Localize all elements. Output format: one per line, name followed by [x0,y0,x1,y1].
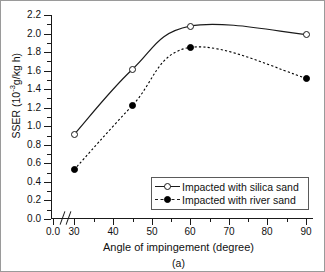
x-tick-90 [306,219,307,225]
y-axis-label-head: SSER (10 [10,92,22,139]
legend-marker-filled-circle-icon [155,194,180,205]
curve-silica-sand [74,24,306,134]
data-point-river-90 [303,75,310,82]
x-tick-70 [229,219,230,225]
legend-item-silica-sand: Impacted with silica sand [155,180,305,193]
y-axis-label-tail: g/kg h) [10,53,22,85]
x-tick-label-60: 60 [173,227,207,237]
x-tick-label-50: 50 [135,227,169,237]
x-tick-minor [133,219,134,222]
x-tick-minor [171,219,172,222]
figure-panel: 0.00.20.40.60.81.01.21.41.61.82.02.2 0.0… [0,0,325,272]
y-axis-label-exponent: -3 [8,85,17,92]
data-point-river-30 [71,166,78,173]
data-point-river-45 [129,102,136,109]
x-tick-label-80: 80 [250,227,284,237]
y-tick-label-2.2: 2.2 [15,10,41,20]
y-tick-0.2 [44,200,51,201]
y-tick-1.6 [44,71,51,72]
legend-item-river-sand: Impacted with river sand [155,193,305,206]
y-tick-label-0.4: 0.4 [15,177,41,187]
x-tick-60 [190,219,191,225]
x-tick-0.0 [53,219,54,225]
y-tick-1.4 [44,89,51,90]
y-tick-0.6 [44,163,51,164]
x-tick-40 [113,219,114,225]
x-tick-50 [152,219,153,225]
x-tick-80 [267,219,268,225]
legend-label-river-sand: Impacted with river sand [180,194,296,206]
y-tick-1.0 [44,126,51,127]
y-tick-label-0.2: 0.2 [15,195,41,205]
y-tick-0.4 [44,182,51,183]
legend-marker-open-circle-icon [155,181,180,192]
data-point-silica-45 [129,66,136,73]
x-tick-label-30: 30 [57,227,91,237]
x-tick-minor [210,219,211,222]
x-tick-minor [287,219,288,222]
legend-box: Impacted with silica sand Impacted with … [151,177,309,210]
x-tick-label-70: 70 [212,227,246,237]
x-tick-label-90: 90 [289,227,323,237]
y-tick-label-0.0: 0.0 [15,214,41,224]
y-tick-0.8 [44,145,51,146]
data-point-river-60 [187,44,194,51]
legend-label-silica-sand: Impacted with silica sand [180,181,299,193]
x-axis-label: Angle of impingement (degree) [41,241,316,253]
x-tick-minor [94,219,95,222]
curve-river-sand [74,47,306,170]
data-point-silica-30 [71,131,78,138]
y-tick-2.2 [44,15,51,16]
y-tick-0.0 [44,219,51,220]
y-tick-1.2 [44,108,51,109]
x-tick-minor [248,219,249,222]
data-point-silica-60 [187,23,194,30]
data-point-silica-90 [303,31,310,38]
y-axis-label: SSER (10-3g/kg h) [8,21,22,171]
x-tick-label-40: 40 [96,227,130,237]
figure-caption: (a) [41,257,316,269]
y-tick-2.0 [44,34,51,35]
y-tick-1.8 [44,52,51,53]
